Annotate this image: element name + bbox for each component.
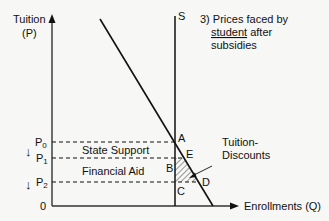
- annotation-line2: student after: [211, 26, 272, 38]
- down-arrow-icon: ↓: [25, 144, 32, 159]
- x-axis-arrow-icon: [230, 203, 239, 210]
- demand-curve: [100, 19, 213, 206]
- annotation-line1: 3) Prices faced by: [200, 13, 289, 25]
- price-label-p1: P1: [36, 152, 48, 166]
- state-support-label: State Support: [82, 144, 149, 156]
- point-b-label: B: [166, 162, 173, 174]
- tuition-discounts-label-line2: Discounts: [222, 149, 271, 161]
- tuition-diagram: Tuition (P) Enrollments (Q) 0 S 3) Price…: [0, 0, 329, 221]
- tuition-discounts-label-line1: Tuition-: [222, 136, 259, 148]
- annotation-after: after: [247, 26, 272, 38]
- annotation-line3: subsidies: [211, 39, 257, 51]
- y-axis-label-line2: (P): [22, 27, 37, 39]
- origin-label: 0: [40, 200, 46, 212]
- point-d-label: D: [202, 176, 210, 188]
- x-axis-label: Enrollments (Q): [244, 200, 321, 212]
- point-e-label: E: [186, 148, 193, 160]
- price-label-p0: P0: [35, 136, 47, 150]
- y-axis-arrow-icon: [49, 14, 56, 23]
- point-c-label: C: [177, 185, 185, 197]
- annotation-student: student: [211, 26, 247, 38]
- y-axis-label-line1: Tuition: [13, 13, 46, 25]
- price-label-p2: P2: [36, 176, 48, 190]
- point-a-label: A: [178, 132, 186, 144]
- supply-label: S: [178, 10, 185, 22]
- down-arrow-icon: ↓: [25, 177, 32, 192]
- financial-aid-label: Financial Aid: [82, 165, 144, 177]
